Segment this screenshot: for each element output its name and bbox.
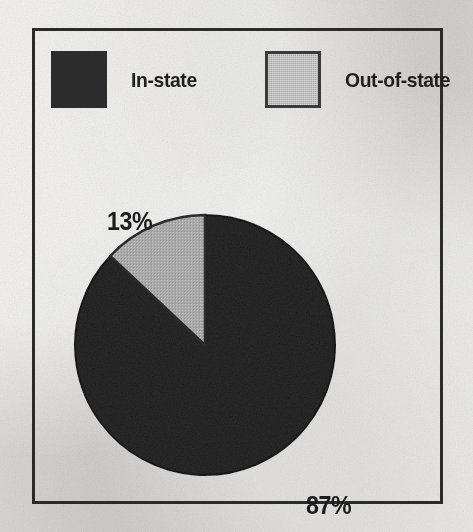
- pie-chart-svg: [35, 31, 440, 501]
- pie-chart: 13% 87%: [35, 31, 440, 501]
- pie-value-label-in-state: 87%: [306, 491, 351, 520]
- pie-value-label-out-of-state: 13%: [107, 207, 152, 236]
- chart-frame: In-state Out-of-state: [32, 28, 443, 504]
